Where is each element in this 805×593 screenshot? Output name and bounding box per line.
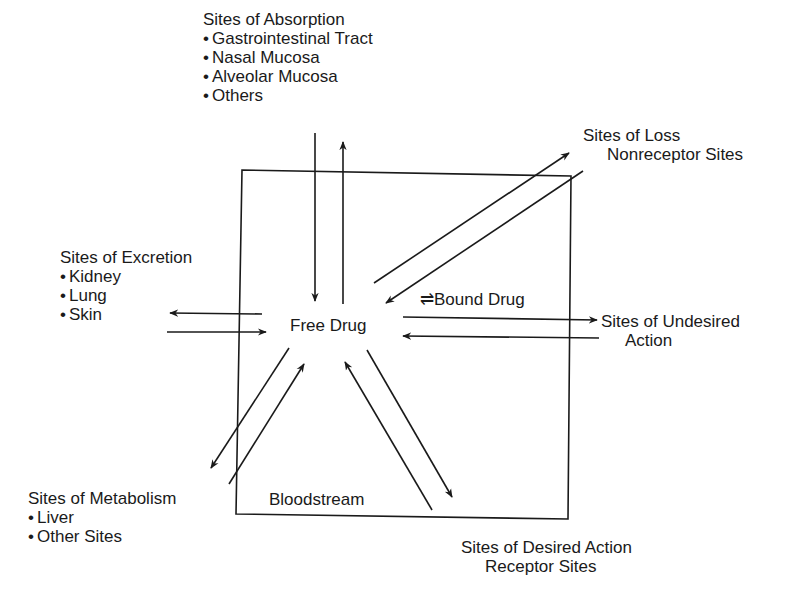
free-drug-label: Free Drug: [290, 316, 367, 335]
desired-subtitle: Receptor Sites: [461, 557, 632, 576]
metabolism-title: Sites of Metabolism: [28, 489, 176, 508]
excretion-item: Lung: [60, 286, 192, 305]
bound-drug-label: ⇌Bound Drug: [420, 290, 525, 309]
loss-subtitle: Nonreceptor Sites: [583, 145, 743, 164]
undesired-label: Sites of Undesired Action: [601, 312, 740, 350]
excretion-title: Sites of Excretion: [60, 248, 192, 267]
undesired-subtitle: Action: [601, 331, 740, 350]
bound-drug-text: Bound Drug: [434, 290, 525, 309]
metabolism-label: Sites of Metabolism Liver Other Sites: [28, 489, 176, 546]
bloodstream-label: Bloodstream: [269, 490, 364, 509]
excretion-label: Sites of Excretion Kidney Lung Skin: [60, 248, 192, 324]
excretion-item: Skin: [60, 305, 192, 324]
absorption-item: Nasal Mucosa: [203, 48, 373, 67]
absorption-item: Alveolar Mucosa: [203, 67, 373, 86]
undesired-title: Sites of Undesired: [601, 312, 740, 331]
undesired-out-arrow: [403, 317, 597, 320]
equilibrium-icon: ⇌: [420, 290, 434, 309]
metabolism-item: Liver: [28, 508, 176, 527]
loss-label: Sites of Loss Nonreceptor Sites: [583, 126, 743, 164]
absorption-title: Sites of Absorption: [203, 10, 373, 29]
absorption-item: Gastrointestinal Tract: [203, 29, 373, 48]
desired-out-arrow: [367, 350, 452, 497]
excretion-item: Kidney: [60, 267, 192, 286]
absorption-label: Sites of Absorption Gastrointestinal Tra…: [203, 10, 373, 105]
bloodstream-box: [236, 170, 571, 519]
metabolism-item: Other Sites: [28, 527, 176, 546]
loss-title: Sites of Loss: [583, 126, 743, 145]
loss-in-arrow: [386, 171, 583, 303]
desired-title: Sites of Desired Action: [461, 538, 632, 557]
desired-label: Sites of Desired Action Receptor Sites: [461, 538, 632, 576]
absorption-item: Others: [203, 86, 373, 105]
desired-in-arrow: [345, 362, 432, 510]
